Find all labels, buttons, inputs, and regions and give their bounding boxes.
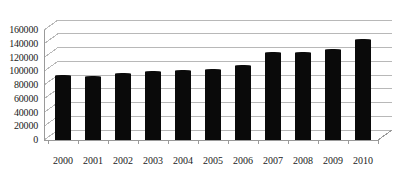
bar [265, 53, 281, 140]
y-axis-tick-label: 160000 [0, 25, 42, 35]
y-axis-tick-label: 20000 [0, 121, 42, 131]
x-axis-tick-label: 2005 [197, 155, 229, 167]
x-axis-tick-label: 2010 [347, 155, 379, 167]
x-axis-tick-label: 2007 [257, 155, 289, 167]
x-axis-tick-label: 2003 [137, 155, 169, 167]
x-axis: 2000200120022003200420052006200720082009… [44, 155, 396, 173]
bar-cap [235, 65, 251, 67]
bar-cap [115, 73, 131, 75]
y-axis-tick-label: 0 [0, 135, 42, 145]
bar-cap [265, 52, 281, 54]
bar [175, 71, 191, 140]
x-axis-tick-label: 2000 [47, 155, 79, 167]
bar [355, 40, 371, 140]
bar [85, 77, 101, 140]
bar-cap [325, 49, 341, 51]
x-axis-tick-label: 2001 [77, 155, 109, 167]
x-axis-tick-label: 2009 [317, 155, 349, 167]
bar-series [44, 8, 396, 148]
y-axis-tick-label: 80000 [0, 80, 42, 90]
bar [55, 76, 71, 140]
bar [235, 66, 251, 140]
bar-cap [85, 76, 101, 78]
x-axis-tick-label: 2008 [287, 155, 319, 167]
y-axis-tick-label: 100000 [0, 66, 42, 76]
bar-cap [355, 39, 371, 41]
plot-area [44, 8, 396, 148]
x-axis-tick-label: 2004 [167, 155, 199, 167]
bar-cap [145, 71, 161, 73]
x-axis-tick-label: 2002 [107, 155, 139, 167]
bar [325, 50, 341, 140]
bar-cap [175, 70, 191, 72]
y-axis: 0200004000060000800001000001200001400001… [0, 0, 42, 178]
bar [115, 74, 131, 140]
y-axis-tick-label: 40000 [0, 108, 42, 118]
y-axis-tick-label: 120000 [0, 53, 42, 63]
x-axis-tick-label: 2006 [227, 155, 259, 167]
y-axis-tick-label: 60000 [0, 94, 42, 104]
bar-cap [55, 75, 71, 77]
y-axis-tick-label: 140000 [0, 39, 42, 49]
bar-cap [205, 69, 221, 71]
bar-cap [295, 52, 311, 54]
bar [205, 70, 221, 140]
bar [295, 53, 311, 140]
bar [145, 72, 161, 140]
bar-chart: 0200004000060000800001000001200001400001… [0, 0, 399, 178]
